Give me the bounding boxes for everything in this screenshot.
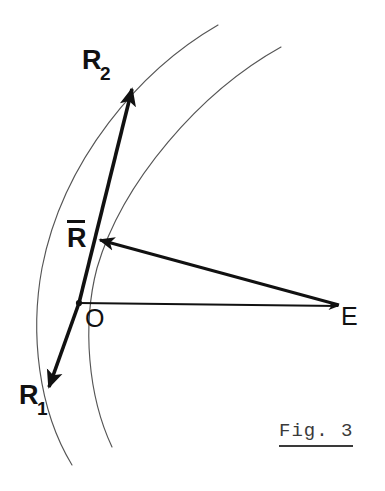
label-R2: R2 xyxy=(82,47,111,78)
figure-3-container: R2 R R1 O E Fig. 3 xyxy=(0,0,385,491)
label-R2-base: R xyxy=(82,45,101,75)
figure-caption: Fig. 3 xyxy=(279,420,353,447)
label-R-bar: R xyxy=(67,225,86,252)
inner-arc xyxy=(89,47,281,447)
label-R1: R1 xyxy=(19,382,48,413)
label-R-bar-overbar-wrap: R xyxy=(67,225,86,252)
overbar-icon xyxy=(67,220,85,223)
vector-O-to-R2 xyxy=(79,89,132,303)
vector-O-to-E xyxy=(79,303,338,306)
label-E-point: E xyxy=(341,304,358,329)
vector-O-to-R1 xyxy=(49,303,79,387)
label-R-bar-base: R xyxy=(67,223,86,253)
label-origin: O xyxy=(85,306,104,331)
label-R1-base: R xyxy=(19,380,38,410)
label-R1-subscript: 1 xyxy=(37,398,47,419)
vector-diagram-canvas xyxy=(0,0,385,491)
label-R2-subscript: 2 xyxy=(100,63,110,84)
vector-E-to-Rbar xyxy=(100,240,339,305)
outer-arc xyxy=(37,25,218,465)
